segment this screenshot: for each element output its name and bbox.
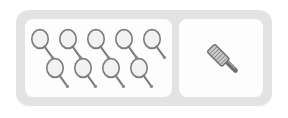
tennis-racket-icon[interactable]: [141, 28, 168, 60]
tennis-racket-icon[interactable]: [29, 28, 56, 60]
inventory-items-panel[interactable]: [25, 19, 172, 97]
tennis-racket-icon[interactable]: [85, 28, 112, 60]
screenshot-root: [0, 0, 288, 118]
tennis-racket-icon[interactable]: [72, 57, 99, 89]
tennis-racket-icon[interactable]: [128, 57, 155, 89]
racket-row-bottom: [29, 57, 168, 89]
brush-icon[interactable]: [198, 35, 244, 81]
tennis-racket-icon[interactable]: [44, 57, 71, 89]
racket-grid: [29, 24, 168, 93]
tennis-racket-icon[interactable]: [57, 28, 84, 60]
selected-tool-panel[interactable]: [179, 19, 263, 97]
tennis-racket-icon[interactable]: [113, 28, 140, 60]
racket-row-top: [29, 28, 168, 60]
tray-frame: [16, 10, 272, 106]
tennis-racket-icon[interactable]: [100, 57, 127, 89]
panel-container: [25, 19, 263, 97]
